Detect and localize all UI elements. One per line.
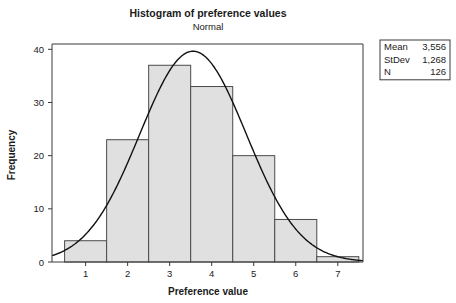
legend-value: 3,556 [422,41,446,52]
chart-subtitle: Normal [193,21,224,32]
y-tick-label: 20 [33,150,44,161]
y-tick-label: 0 [39,257,44,268]
x-axis-title: Preference value [168,286,248,297]
y-tick-label: 10 [33,203,44,214]
x-tick-label: 7 [335,268,340,279]
legend-value: 126 [430,66,446,77]
x-axis: 1234567 [83,262,340,279]
legend-label: StDev [384,54,410,65]
x-tick-label: 1 [83,268,88,279]
legend-label: Mean [384,41,408,52]
y-axis: 010203040 [33,44,52,268]
stats-legend: Mean3,556StDev1,268N126 [380,40,450,80]
y-tick-label: 40 [33,44,44,55]
x-tick-label: 3 [167,268,172,279]
legend-value: 1,268 [422,54,446,65]
histogram-bar [191,87,233,262]
x-tick-label: 5 [251,268,256,279]
x-tick-label: 2 [125,268,130,279]
histogram-chart: Histogram of preference values Normal 12… [0,0,456,303]
x-tick-label: 4 [209,268,214,279]
histogram-bar [107,140,149,262]
legend-label: N [384,66,391,77]
plot-area [52,44,363,262]
histogram-bar [65,241,107,262]
y-axis-title: Frequency [6,129,17,180]
x-tick-label: 6 [293,268,298,279]
histogram-bars [65,65,359,262]
histogram-bar [275,219,317,262]
histogram-bar [149,65,191,262]
chart-title: Histogram of preference values [130,7,287,19]
histogram-bar [233,156,275,262]
y-tick-label: 30 [33,97,44,108]
